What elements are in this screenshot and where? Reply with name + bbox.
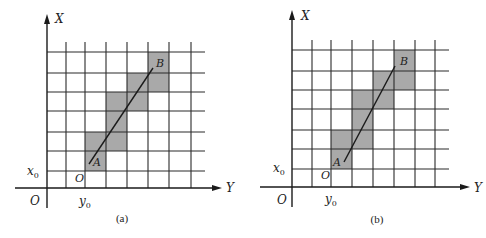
x0-label: x0 bbox=[27, 164, 39, 180]
bresenham-grid-diagram: X Y O x0 y0 O A B (a) X Y O x0 y0 O A B … bbox=[0, 0, 486, 238]
y-axis-arrow-icon bbox=[460, 184, 470, 190]
shaded-pixel bbox=[352, 130, 373, 149]
y-axis-label: Y bbox=[226, 181, 235, 195]
y-axis-arrow-icon bbox=[212, 185, 222, 191]
y0-label: y0 bbox=[324, 192, 337, 208]
shaded-pixel bbox=[373, 90, 394, 109]
origin-label: O bbox=[277, 193, 287, 207]
x-axis-label: X bbox=[54, 12, 64, 26]
y0-label: y0 bbox=[78, 194, 91, 210]
point-a-label: A bbox=[332, 156, 341, 169]
shaded-pixel bbox=[352, 90, 373, 109]
x0-label: x0 bbox=[273, 161, 285, 177]
origin-label: O bbox=[30, 194, 40, 208]
shaded-pixel bbox=[85, 132, 106, 151]
caption-b: (b) bbox=[371, 213, 384, 226]
x-axis-label: X bbox=[300, 9, 310, 23]
start-o-label: O bbox=[321, 169, 330, 182]
shaded-pixel bbox=[394, 71, 415, 90]
x-axis-arrow-icon bbox=[289, 10, 295, 20]
y-axis-label: Y bbox=[474, 181, 483, 195]
panel-a: X Y O x0 y0 O A B (a) bbox=[15, 12, 235, 225]
point-a-label: A bbox=[92, 156, 101, 169]
shaded-pixel bbox=[106, 92, 127, 111]
shaded-pixel bbox=[331, 130, 352, 149]
caption-a: (a) bbox=[116, 212, 129, 225]
shaded-pixel bbox=[148, 73, 169, 92]
point-b-label: B bbox=[155, 57, 164, 70]
panel-b: X Y O x0 y0 O A B (b) bbox=[260, 9, 483, 226]
start-o-label: O bbox=[75, 172, 84, 185]
point-b-label: B bbox=[399, 55, 408, 68]
x-axis-arrow-icon bbox=[44, 14, 50, 24]
shaded-pixel bbox=[127, 73, 148, 92]
